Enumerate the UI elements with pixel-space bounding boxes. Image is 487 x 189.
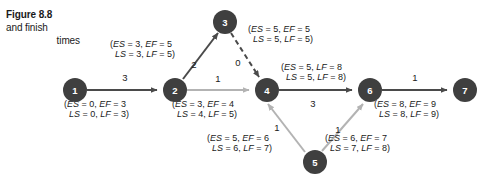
edge-times-line-1: (ES = 8, EF = 9 [374,99,436,109]
node-1[interactable]: 1 [63,78,87,102]
edge-duration-label: 3 [122,72,127,83]
edge-duration-label: 1 [274,122,279,133]
edge-times-line-1: (ES = 5, EF = 5 [248,24,310,34]
node-label: 4 [264,85,270,96]
edge-duration-label: 2 [191,59,196,70]
edge-6-to-7: 1 (ES = 8, EF = 9 LS = 8, LF = 9) [374,72,447,119]
edge-times-line-2: LS = 4, LF = 5) [177,109,237,119]
edge-duration-label: 3 [310,98,315,109]
node-4[interactable]: 4 [255,78,279,102]
node-label: 7 [462,85,467,96]
edge-times-line-1: (ES = 5, EF = 6 [207,133,269,143]
node-7[interactable]: 7 [453,78,477,102]
edge-times-line-2: LS = 6, LF = 7) [212,143,272,153]
edge-times-line-1: (ES = 3, EF = 5 [110,39,172,49]
node-label: 2 [172,85,177,96]
edge-times-line-1: (ES = 5, LF = 8 [281,62,342,72]
edge-duration-label: 1 [215,73,220,84]
edge-times-line-2: LS = 8, LF = 9) [379,109,439,119]
edge-times-line-1: (ES = 6, EF = 7 [325,133,387,143]
node-5[interactable]: 5 [303,150,327,174]
node-label: 3 [222,17,227,28]
node-label: 1 [72,85,78,96]
edge-times-line-2: LS = 7, LF = 8) [330,143,390,153]
node-2[interactable]: 2 [163,78,187,102]
edge-times-line-2: LS = 5, LF = 8) [286,72,346,82]
edge-4-to-6: 3 (ES = 5, LF = 8 LS = 5, LF = 8) [279,62,352,109]
edge-line [183,33,218,79]
network-diagram: 3 (ES = 0, EF = 3 LS = 0, LF = 3) 2 (ES … [0,0,487,189]
node-3[interactable]: 3 [213,10,237,34]
edge-times-line-2: LS = 0, LF = 3) [69,109,129,119]
edge-duration-label: 1 [412,72,417,83]
edge-times-line-2: LS = 5, LF = 5) [253,34,313,44]
node-label: 5 [312,157,318,168]
node-label: 6 [367,85,372,96]
edge-duration-label: 0 [235,57,240,68]
figure-container: Figure 8.8 and finish times 3 (ES = 0, E… [0,0,487,189]
edge-times-line-2: LS = 3, LF = 5) [115,49,175,59]
edge-times-line-1: (ES = 3, EF = 4 [172,99,234,109]
node-6[interactable]: 6 [358,78,382,102]
